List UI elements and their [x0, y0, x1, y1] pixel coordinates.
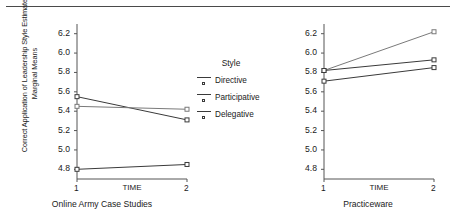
- y-axis-tick-label: 5.8: [46, 66, 70, 76]
- legend-key-participative-icon: [196, 90, 213, 105]
- legend-title: Style: [200, 58, 262, 68]
- y-axis-tick-label: 5.0: [293, 144, 317, 154]
- y-axis-tick-label: 6.0: [46, 47, 70, 57]
- y-axis-tick-label: 5.4: [293, 105, 317, 115]
- x-axis-title: TIME: [77, 183, 187, 192]
- legend-label-participative: Participative: [213, 93, 260, 102]
- chart-panel-practiceware: Practiceware 4.85.05.25.45.65.86.06.212T…: [282, 14, 454, 214]
- panel-caption-right: Practiceware: [282, 199, 454, 209]
- chart-panel-online-army-case-studies: Correct Application of Leadership Style …: [2, 14, 202, 214]
- y-axis-tick-label: 5.8: [293, 66, 317, 76]
- legend-label-delegative: Delegative: [213, 110, 254, 119]
- y-axis-tick-label: 5.6: [46, 86, 70, 96]
- panel-caption-left: Online Army Case Studies: [2, 199, 202, 209]
- legend-item-delegative[interactable]: Delegative: [196, 106, 288, 123]
- y-axis-tick-label: 6.2: [293, 28, 317, 38]
- y-axis-tick-label: 5.2: [46, 125, 70, 135]
- y-axis-tick-label: 4.8: [293, 163, 317, 173]
- legend-key-directive-icon: [196, 73, 213, 88]
- x-axis-title: TIME: [324, 183, 434, 192]
- legend: Style Directive Participative Delegative: [196, 58, 288, 123]
- y-axis-tick-label: 5.2: [293, 125, 317, 135]
- y-axis-tick-label: 5.6: [293, 86, 317, 96]
- y-axis-tick-label: 5.4: [46, 105, 70, 115]
- y-axis-tick-label: 4.8: [46, 163, 70, 173]
- legend-label-directive: Directive: [213, 76, 247, 85]
- top-rule-divider: [6, 6, 450, 7]
- y-axis-tick-label: 6.2: [46, 28, 70, 38]
- y-axis-tick-label: 5.0: [46, 144, 70, 154]
- y-axis-tick-label: 6.0: [293, 47, 317, 57]
- figure-container: Correct Application of Leadership Style …: [0, 0, 456, 223]
- legend-key-delegative-icon: [196, 107, 213, 122]
- legend-item-directive[interactable]: Directive: [196, 72, 288, 89]
- legend-item-participative[interactable]: Participative: [196, 89, 288, 106]
